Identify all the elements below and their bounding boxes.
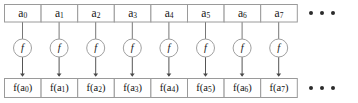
ellipsis-dot <box>320 86 324 90</box>
ellipsis-dot <box>309 86 313 90</box>
ellipsis-dot <box>331 11 335 15</box>
map-function-diagram: a0 a1 a2 a3 a4 a5 a6 a7 f f f f f f f f … <box>0 0 358 103</box>
ellipsis-dot <box>309 11 313 15</box>
output-row-ellipsis <box>309 83 335 94</box>
input-row-ellipsis <box>309 8 335 19</box>
ellipsis-dot <box>320 11 324 15</box>
ellipsis-dot <box>331 86 335 90</box>
function-circles <box>14 39 288 57</box>
diagram-canvas <box>0 0 358 103</box>
input-array-boxes <box>5 5 298 23</box>
output-array-boxes <box>5 79 298 98</box>
